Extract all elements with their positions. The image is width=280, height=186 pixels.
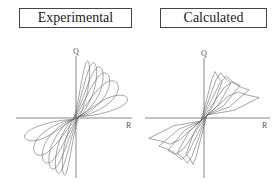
calculated-plot: Q R xyxy=(145,49,270,178)
y-axis-label: Q xyxy=(201,49,207,58)
y-axis-label: Q xyxy=(73,47,79,56)
experimental-plot: Q R xyxy=(16,47,132,178)
x-axis-label: R xyxy=(126,121,132,130)
hysteresis-plots: Q R Q R xyxy=(0,0,280,186)
x-axis-label: R xyxy=(262,121,268,130)
